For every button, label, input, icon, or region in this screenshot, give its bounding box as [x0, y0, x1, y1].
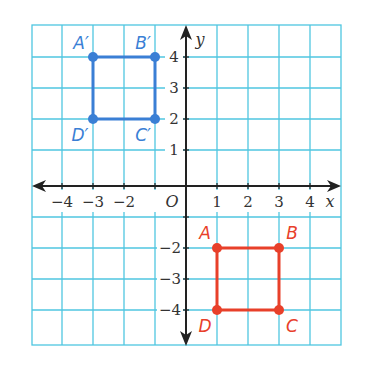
y-axis-label: y [194, 30, 205, 49]
x-tick-label: −2 [113, 193, 135, 211]
x-tick-label: −4 [51, 193, 73, 211]
x-tick-label: 3 [274, 193, 284, 211]
x-axis-label: x [325, 192, 334, 211]
point-c [274, 305, 284, 315]
vertex-label-d-prime: D′ [72, 125, 89, 145]
x-tick-label: 1 [212, 193, 222, 211]
point-a-prime [88, 52, 98, 62]
vertex-label-c-prime: C′ [135, 125, 151, 145]
y-tick-label: 1 [169, 141, 179, 159]
y-tick-label: −4 [159, 301, 181, 319]
vertex-label-d: D [198, 316, 211, 336]
point-c-prime [150, 114, 160, 124]
y-tick-label: 4 [169, 48, 179, 66]
y-tick-label: 2 [169, 110, 179, 128]
x-tick-label: 4 [305, 193, 315, 211]
vertex-label-b: B [286, 223, 298, 243]
x-tick-label: −3 [82, 193, 104, 211]
y-tick-label: −3 [159, 270, 181, 288]
vertex-label-c: C [286, 316, 298, 336]
point-a [212, 243, 222, 253]
vertex-label-a-prime: A′ [72, 33, 89, 53]
y-tick-label: 3 [169, 79, 179, 97]
point-d-prime [88, 114, 98, 124]
point-b-prime [150, 52, 160, 62]
origin-label: O [165, 192, 178, 211]
square-a-prime-b-prime-c-prime-d-prime: A′ B′ C′ D′ [72, 33, 160, 145]
point-b [274, 243, 284, 253]
x-tick-label: 2 [243, 193, 253, 211]
point-d [212, 305, 222, 315]
vertex-label-a: A [198, 223, 211, 243]
vertex-label-b-prime: B′ [135, 33, 151, 53]
coordinate-plane: −4 −3 −2 O 1 2 3 4 x y 4 3 2 1 −2 −3 −4 … [0, 0, 370, 366]
y-tick-label: −2 [159, 239, 181, 257]
